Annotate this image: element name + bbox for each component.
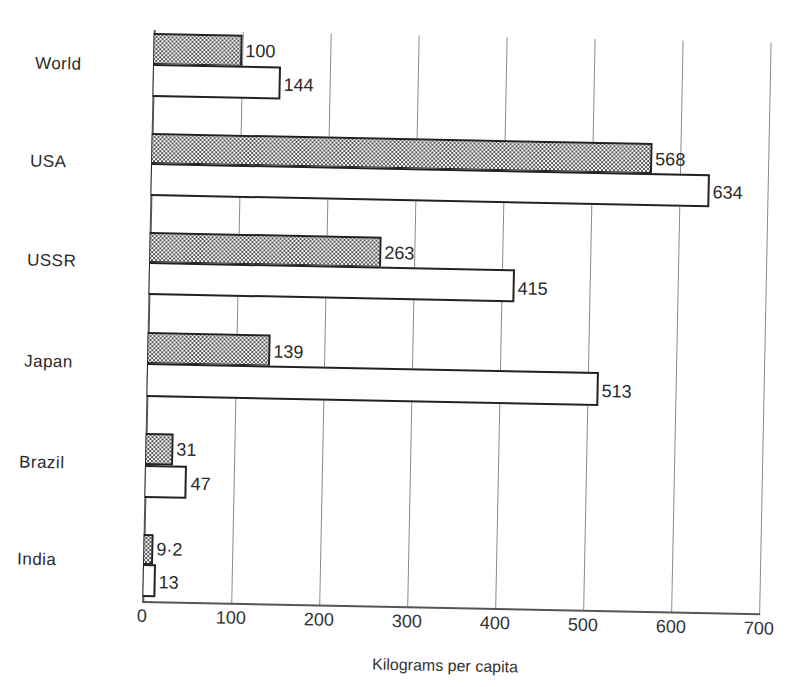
value-label-india-plain: 13 [158,573,178,591]
value-label-world-plain: 144 [283,76,313,95]
value-label-brazil-stippled: 31 [176,441,196,459]
x-tick-0: 0 [137,607,147,625]
gridline-700 [759,42,771,614]
x-tick-100: 100 [216,608,246,627]
bar-brazil-stippled [145,433,174,466]
value-label-brazil-plain: 47 [190,475,210,493]
category-label-world: World [35,55,82,73]
gridline-500 [583,39,595,611]
category-label-ussr: USSR [27,252,77,270]
bar-india-stippled [143,534,154,565]
category-label-brazil: Brazil [19,453,65,471]
value-label-india-stippled: 9·2 [156,540,182,559]
bar-world-stippled [153,33,243,67]
bar-japan-plain [146,363,599,406]
value-label-ussr-plain: 415 [517,279,547,298]
gridline-600 [671,41,683,613]
x-tick-600: 600 [656,617,686,636]
value-label-japan-stippled: 139 [273,343,303,362]
value-label-usa-plain: 634 [712,183,742,202]
gridline-200 [319,34,331,606]
value-label-world-stippled: 100 [245,42,275,61]
bar-ussr-plain [148,262,515,302]
value-label-usa-stippled: 568 [655,150,685,169]
gridline-300 [407,35,419,607]
gridline-100 [231,32,243,604]
x-tick-300: 300 [392,612,422,631]
bar-india-plain [142,564,156,597]
gridline-400 [495,37,507,609]
category-label-japan: Japan [24,353,73,371]
x-tick-200: 200 [304,610,334,629]
category-label-india: India [17,550,57,568]
value-label-japan-plain: 513 [601,382,631,401]
category-label-usa: USA [30,153,67,171]
x-tick-700: 700 [744,619,774,638]
y-axis-line [142,30,155,602]
x-axis-title: Kilograms per capita [372,657,518,676]
bar-brazil-plain [144,465,187,499]
bar-japan-stippled [147,332,271,366]
x-tick-400: 400 [480,614,510,633]
x-tick-500: 500 [568,615,598,634]
bar-world-plain [152,64,281,100]
bar-chart: World 100 144 USA 568 634 USSR 263 415 J… [0,0,794,687]
value-label-ussr-stippled: 263 [384,244,414,263]
